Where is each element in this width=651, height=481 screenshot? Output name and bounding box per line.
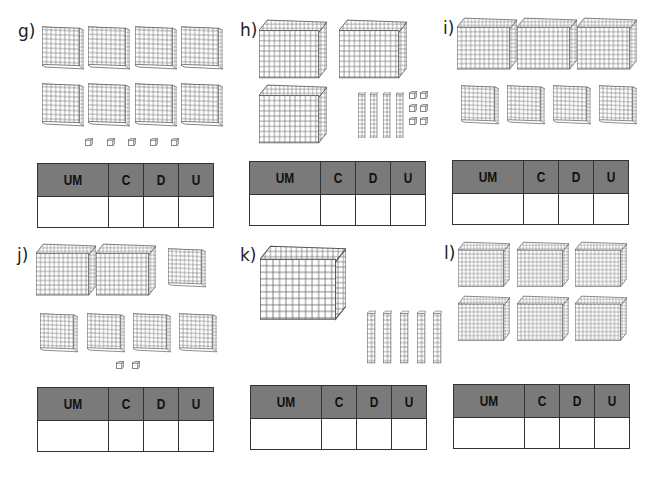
exercise-label-j: j): [17, 245, 28, 265]
answer-cell-u[interactable]: [179, 421, 214, 452]
place-value-table-j: UM C D U: [37, 387, 214, 452]
answer-cell-d[interactable]: [559, 194, 594, 225]
base-ten-blocks-g: [42, 20, 227, 155]
answer-cell-um[interactable]: [38, 421, 109, 452]
answer-cell-d[interactable]: [144, 197, 179, 228]
exercise-label-k: k): [240, 245, 256, 265]
base-ten-blocks-i: [457, 17, 647, 132]
answer-cell-d[interactable]: [356, 195, 391, 226]
place-value-table-l: UM C D U: [453, 384, 630, 449]
exercise-label-i: i): [443, 18, 454, 38]
answer-cell-u[interactable]: [391, 195, 426, 226]
answer-cell-c[interactable]: [321, 195, 356, 226]
header-um: UM: [38, 388, 109, 421]
header-c: C: [525, 385, 560, 418]
header-u: U: [179, 388, 214, 421]
answer-cell-um[interactable]: [454, 418, 525, 449]
base-ten-blocks-l: [458, 241, 648, 356]
answer-cell-d[interactable]: [357, 419, 392, 450]
header-um: UM: [251, 386, 322, 419]
answer-cell-c[interactable]: [322, 419, 357, 450]
answer-cell-u[interactable]: [179, 197, 214, 228]
answer-cell-c[interactable]: [109, 197, 144, 228]
header-d: D: [560, 385, 595, 418]
header-d: D: [144, 388, 179, 421]
header-um: UM: [250, 162, 321, 195]
base-ten-blocks-k: [260, 244, 445, 374]
base-ten-blocks-j: [36, 243, 221, 373]
base-ten-blocks-h: [259, 19, 439, 149]
answer-cell-d[interactable]: [560, 418, 595, 449]
header-u: U: [392, 386, 427, 419]
answer-cell-d[interactable]: [144, 421, 179, 452]
place-value-table-k: UM C D U: [250, 385, 427, 450]
header-um: UM: [454, 385, 525, 418]
header-c: C: [109, 388, 144, 421]
header-u: U: [179, 164, 214, 197]
header-u: U: [391, 162, 426, 195]
answer-cell-u[interactable]: [595, 418, 630, 449]
exercise-label-h: h): [240, 20, 257, 40]
exercise-label-g: g): [18, 21, 35, 41]
header-um: UM: [38, 164, 109, 197]
header-u: U: [594, 161, 629, 194]
header-c: C: [524, 161, 559, 194]
header-d: D: [559, 161, 594, 194]
answer-cell-um[interactable]: [453, 194, 524, 225]
place-value-table-h: UM C D U: [249, 161, 426, 226]
answer-cell-c[interactable]: [524, 194, 559, 225]
header-d: D: [144, 164, 179, 197]
answer-cell-um[interactable]: [38, 197, 109, 228]
header-c: C: [321, 162, 356, 195]
header-d: D: [356, 162, 391, 195]
answer-cell-um[interactable]: [251, 419, 322, 450]
header-c: C: [109, 164, 144, 197]
header-um: UM: [453, 161, 524, 194]
place-value-table-g: UM C D U: [37, 163, 214, 228]
answer-cell-c[interactable]: [525, 418, 560, 449]
answer-cell-u[interactable]: [594, 194, 629, 225]
header-c: C: [322, 386, 357, 419]
exercise-label-l: l): [444, 243, 455, 263]
place-value-table-i: UM C D U: [452, 160, 629, 225]
answer-cell-um[interactable]: [250, 195, 321, 226]
answer-cell-c[interactable]: [109, 421, 144, 452]
header-u: U: [595, 385, 630, 418]
header-d: D: [357, 386, 392, 419]
answer-cell-u[interactable]: [392, 419, 427, 450]
